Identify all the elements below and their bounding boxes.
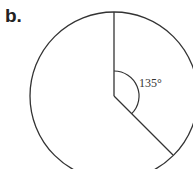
circle-outline — [30, 12, 193, 169]
radius-diagonal — [114, 96, 173, 155]
angle-label: 135° — [139, 76, 162, 90]
angle-arc — [114, 71, 139, 114]
circle-diagram: 135° — [0, 0, 193, 169]
